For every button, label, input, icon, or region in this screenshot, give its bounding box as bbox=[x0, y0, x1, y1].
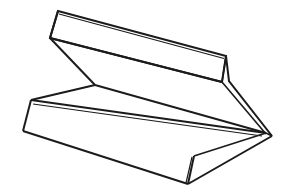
folded-sheet-drawing bbox=[0, 0, 286, 193]
